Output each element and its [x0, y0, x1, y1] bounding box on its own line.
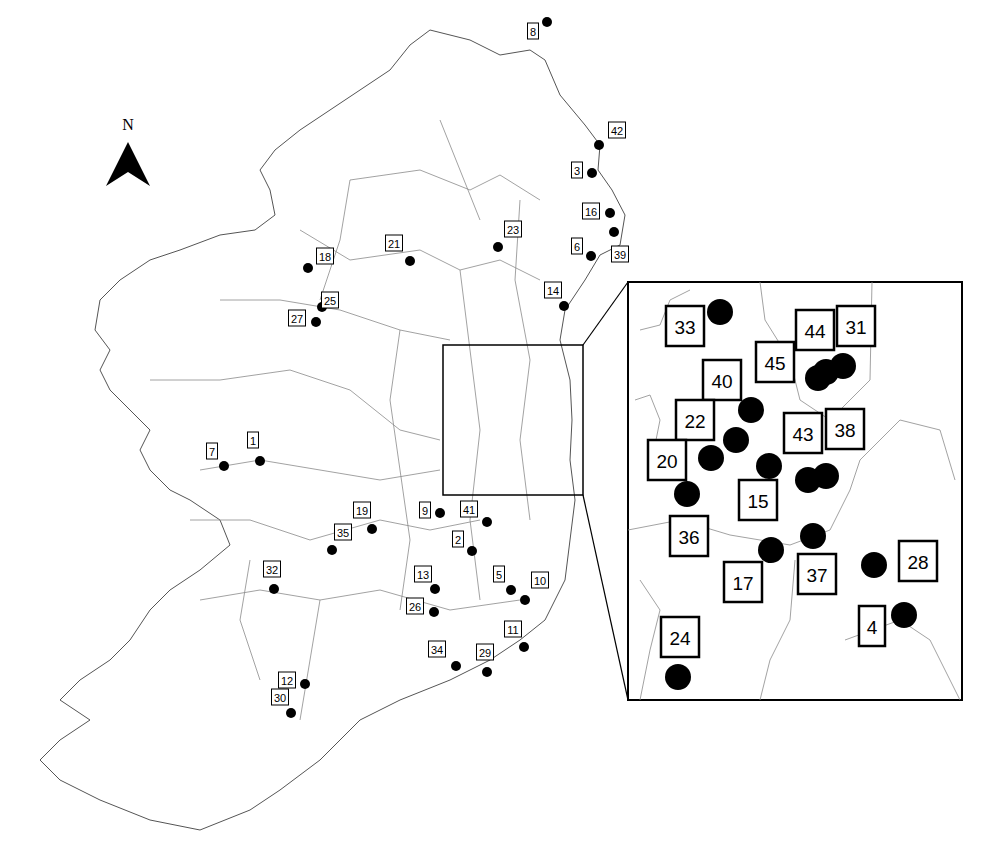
site-label: 30 — [274, 692, 286, 704]
site-marker-42: 42 — [594, 122, 626, 150]
site-label: 40 — [711, 371, 732, 392]
site-label: 38 — [834, 420, 855, 441]
site-dot — [519, 642, 529, 652]
site-label: 25 — [324, 295, 336, 307]
site-label: 39 — [614, 249, 626, 261]
site-dot — [430, 584, 440, 594]
site-label: 41 — [463, 504, 475, 516]
site-label: 19 — [356, 505, 368, 517]
site-label: 27 — [291, 313, 303, 325]
site-marker-29: 29 — [477, 644, 494, 677]
site-dot — [723, 427, 749, 453]
site-label: 17 — [732, 573, 753, 594]
site-label: 33 — [674, 317, 695, 338]
site-dot — [559, 301, 569, 311]
site-dot — [219, 461, 229, 471]
north-arrow-icon — [106, 142, 150, 186]
site-dot — [303, 263, 313, 273]
site-label: 12 — [281, 675, 293, 687]
site-dot — [327, 545, 337, 555]
site-label: 14 — [547, 285, 559, 297]
site-dot — [429, 607, 439, 617]
site-label: 28 — [907, 552, 928, 573]
site-dot — [367, 524, 377, 534]
site-label: 20 — [656, 451, 677, 472]
site-dot — [493, 242, 503, 252]
north-label: N — [122, 116, 134, 133]
site-label: 5 — [496, 569, 502, 581]
site-dot — [435, 508, 445, 518]
site-dot — [800, 523, 826, 549]
inset-panel: 3344314540224338201536173728424 — [628, 282, 962, 700]
site-label: 8 — [530, 26, 536, 38]
site-dot — [311, 317, 321, 327]
site-dot — [586, 251, 596, 261]
site-label: 22 — [684, 411, 705, 432]
site-dot — [506, 585, 516, 595]
north-arrow: N — [106, 116, 150, 186]
site-label: 15 — [747, 491, 768, 512]
site-label: 43 — [792, 424, 813, 445]
site-label: 18 — [319, 251, 331, 263]
site-dot — [269, 584, 279, 594]
site-dot — [300, 679, 310, 689]
site-label: 35 — [337, 527, 349, 539]
site-dot — [482, 517, 492, 527]
site-dot — [594, 140, 604, 150]
site-dot — [482, 667, 492, 677]
site-label: 21 — [388, 238, 400, 250]
site-label: 34 — [431, 644, 443, 656]
ireland-site-map: N 12356789101112131416181921232526272930… — [0, 0, 986, 862]
site-dot — [813, 463, 839, 489]
site-dot — [861, 552, 887, 578]
site-label: 36 — [678, 527, 699, 548]
site-dot — [520, 595, 530, 605]
site-label: 3 — [574, 165, 580, 177]
site-dot — [756, 453, 782, 479]
site-dot — [758, 537, 784, 563]
site-label: 42 — [611, 125, 623, 137]
site-label: 13 — [417, 569, 429, 581]
site-label: 11 — [507, 624, 518, 636]
site-label: 44 — [804, 321, 826, 342]
site-dot — [707, 299, 733, 325]
site-label: 16 — [585, 206, 597, 218]
site-dot — [255, 456, 265, 466]
site-dot — [467, 546, 477, 556]
site-dot — [542, 17, 552, 27]
site-dot — [674, 481, 700, 507]
site-label: 24 — [669, 628, 691, 649]
site-label: 45 — [764, 353, 785, 374]
site-label: 9 — [422, 505, 428, 517]
site-marker-8: 8 — [528, 17, 553, 39]
site-dot — [609, 227, 619, 237]
site-label: 29 — [479, 647, 491, 659]
site-dot — [286, 708, 296, 718]
site-label: 37 — [806, 565, 827, 586]
site-label: 1 — [250, 435, 256, 447]
site-label: 7 — [209, 446, 215, 458]
site-dot — [405, 256, 415, 266]
inset-connector-bottom — [583, 495, 628, 700]
site-dot — [587, 168, 597, 178]
site-label: 4 — [867, 617, 878, 638]
site-label: 10 — [534, 575, 546, 587]
site-dot — [891, 602, 917, 628]
inset-connector-top — [583, 282, 628, 345]
site-label: 6 — [574, 241, 580, 253]
site-label: 31 — [845, 317, 866, 338]
site-label: 32 — [266, 564, 278, 576]
site-dot — [698, 445, 724, 471]
site-dot — [665, 664, 691, 690]
site-label: 26 — [409, 601, 421, 613]
site-dot — [451, 661, 461, 671]
site-dot — [805, 365, 831, 391]
site-dot — [605, 208, 615, 218]
site-label: 23 — [507, 224, 519, 236]
site-dot — [830, 353, 856, 379]
site-label: 2 — [455, 534, 461, 546]
